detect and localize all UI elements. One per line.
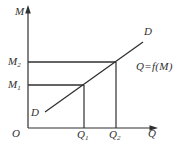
y-tick-m2-sub: 2 xyxy=(17,61,21,69)
y-tick-m1-base: M xyxy=(8,78,17,90)
demand-label-lower: D xyxy=(31,107,39,118)
diagram-canvas xyxy=(0,0,182,148)
x-tick-q1: Q1 xyxy=(77,129,88,142)
y-tick-m1-sub: 1 xyxy=(17,84,21,92)
x-tick-q2: Q2 xyxy=(109,129,120,142)
x-tick-q2-sub: 2 xyxy=(117,134,121,142)
y-axis-arrow xyxy=(25,5,31,14)
x-axis-label: Q xyxy=(148,128,156,139)
y-tick-m1: M1 xyxy=(8,79,21,92)
economics-diagram: M Q O M2 M1 Q1 Q2 D D Q=f(M) xyxy=(0,0,182,148)
x-tick-q1-sub: 1 xyxy=(85,134,89,142)
x-tick-q1-base: Q xyxy=(77,128,85,140)
y-axis-label: M xyxy=(15,6,24,17)
demand-label-upper: D xyxy=(144,26,152,37)
x-tick-q2-base: Q xyxy=(109,128,117,140)
y-tick-m2: M2 xyxy=(8,56,21,69)
function-label: Q=f(M) xyxy=(136,61,173,72)
y-tick-m2-base: M xyxy=(8,55,17,67)
origin-label: O xyxy=(12,128,20,139)
demand-line xyxy=(45,42,143,112)
